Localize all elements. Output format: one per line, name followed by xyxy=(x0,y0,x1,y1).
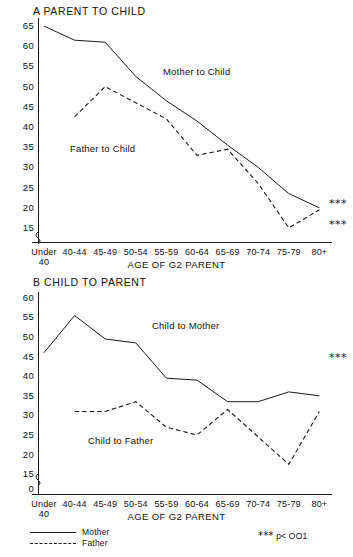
y-tick-label: 45 xyxy=(23,102,34,112)
x-tick-label: 80+ xyxy=(311,499,327,509)
series-label-child-to-father: Child to Father xyxy=(88,435,153,446)
x-tick-label: 60-64 xyxy=(185,499,209,509)
y-tick-label: 40 xyxy=(23,122,34,132)
y-tick-label: 55 xyxy=(23,62,34,72)
y-tick-label: 40 xyxy=(23,371,34,381)
y-tick-label: 30 xyxy=(23,163,34,173)
panel-b-title: B CHILD TO PARENT xyxy=(33,276,146,288)
x-tick-label: 65-69 xyxy=(216,247,240,257)
y-tick-label: 20 xyxy=(23,203,34,213)
plot-area-a: 6560555045403530252015 xyxy=(38,18,328,234)
x-tick-label: 40-44 xyxy=(63,247,87,257)
footnote-pvalue: p< OO1 xyxy=(276,531,307,541)
panel-child-to-parent: B CHILD TO PARENT 605550454035302520150 … xyxy=(0,272,353,522)
x-tick-label: 70-74 xyxy=(246,247,270,257)
x-tick-label: 75-79 xyxy=(277,247,301,257)
x-tick-label: 50-54 xyxy=(124,247,148,257)
series-label-child-to-mother: Child to Mother xyxy=(152,320,219,331)
y-tick-label: 20 xyxy=(23,450,34,460)
x-axis-title-b: AGE OF G2 PARENT xyxy=(0,511,353,522)
legend-label-father: Father xyxy=(82,538,108,549)
y-tick-label: 0 xyxy=(28,484,34,494)
y-tick-label: 60 xyxy=(23,42,34,52)
significance-stars-a-mother: *** xyxy=(329,200,347,208)
panel-parent-to-child: A PARENT TO CHILD 6560555045403530252015… xyxy=(0,0,353,272)
y-tick-label: 35 xyxy=(23,391,34,401)
legend-label-mother: Mother xyxy=(82,527,110,538)
y-tick-label: 30 xyxy=(23,411,34,421)
x-axis-title-a: AGE OF G2 PARENT xyxy=(0,259,353,270)
legend-item-mother: Mother xyxy=(26,527,226,538)
y-tick-label: 45 xyxy=(23,352,34,362)
y-tick-label: 15 xyxy=(23,469,34,479)
significance-stars-b-mother: *** xyxy=(329,354,347,362)
panel-a-title: A PARENT TO CHILD xyxy=(33,5,146,17)
x-tick-label: 60-64 xyxy=(185,247,209,257)
x-tick-label: 80+ xyxy=(311,247,327,257)
y-tick-label: 65 xyxy=(23,21,34,31)
line-series-father xyxy=(75,402,320,465)
line-series-mother xyxy=(44,26,319,208)
significance-footnote: *** p< OO1 xyxy=(258,530,307,541)
y-tick-label: 25 xyxy=(23,183,34,193)
y-tick-label: 25 xyxy=(23,430,34,440)
y-tick-label: 50 xyxy=(23,82,34,92)
x-tick-label: 65-69 xyxy=(216,499,240,509)
y-tick-label: 50 xyxy=(23,332,34,342)
x-tick-label: 40-44 xyxy=(63,499,87,509)
x-tick-label: 50-54 xyxy=(124,499,148,509)
y-tick-label: 60 xyxy=(23,293,34,303)
legend-swatch-solid xyxy=(30,532,76,533)
y-tick-label: 15 xyxy=(23,223,34,233)
x-tick-label: 55-59 xyxy=(154,499,178,509)
series-lines-a xyxy=(38,18,328,234)
x-tick-label: 75-79 xyxy=(277,499,301,509)
x-axis-b xyxy=(32,494,332,495)
series-label-mother-to-child: Mother to Child xyxy=(163,66,230,77)
x-tick-label: 45-49 xyxy=(93,499,117,509)
footnote-stars: *** xyxy=(258,530,274,541)
series-label-father-to-child: Father to Child xyxy=(70,143,135,154)
y-tick-label: 55 xyxy=(23,313,34,323)
legend-swatch-dashed xyxy=(30,543,76,544)
legend-item-father: Father xyxy=(26,538,226,549)
y-tick-label: 35 xyxy=(23,142,34,152)
x-axis-a xyxy=(32,242,332,243)
x-tick-label: 45-49 xyxy=(93,247,117,257)
x-tick-label: 55-59 xyxy=(154,247,178,257)
line-series-father xyxy=(75,87,320,228)
significance-stars-a-father: *** xyxy=(329,221,347,229)
x-tick-label: 70-74 xyxy=(246,499,270,509)
legend: Mother Father xyxy=(26,527,226,549)
